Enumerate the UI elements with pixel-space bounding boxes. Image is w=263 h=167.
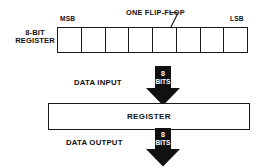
register-block: REGISTER bbox=[48, 103, 250, 130]
data-input-arrow: 8 BITS bbox=[145, 66, 181, 106]
bit-cell bbox=[82, 28, 106, 52]
register-block-label: REGISTER bbox=[127, 112, 171, 121]
bit-cell bbox=[58, 28, 82, 52]
msb-label: MSB bbox=[60, 15, 75, 22]
bit-cell bbox=[177, 28, 201, 52]
bit-cell bbox=[129, 28, 153, 52]
bit-cell bbox=[153, 28, 177, 52]
data-input-label: DATA INPUT bbox=[74, 79, 122, 87]
bit-cell bbox=[106, 28, 130, 52]
bit-cell-row bbox=[57, 27, 248, 53]
register-diagram: 8-BIT REGISTER MSB LSB ONE FLIP-FLOP DAT… bbox=[0, 0, 263, 167]
lsb-label: LSB bbox=[230, 15, 244, 22]
eight-bit-register-caption: 8-BIT REGISTER bbox=[13, 29, 57, 45]
bit-cell bbox=[201, 28, 225, 52]
data-output-arrow: 8 BITS bbox=[145, 128, 181, 167]
bit-cell bbox=[224, 28, 247, 52]
one-flip-flop-label: ONE FLIP-FLOP bbox=[126, 9, 185, 17]
register-caption-line-2: REGISTER bbox=[13, 37, 57, 45]
data-output-label: DATA OUTPUT bbox=[66, 139, 123, 147]
